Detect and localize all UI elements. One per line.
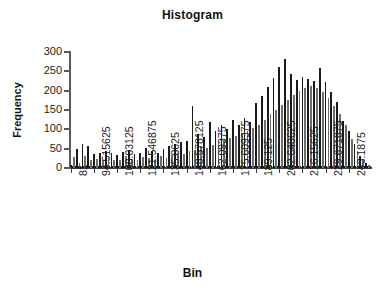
x-axis-tick: [210, 169, 211, 173]
y-axis-tick: [64, 51, 71, 53]
x-axis-tick-label: 243.1875: [343, 176, 357, 256]
y-axis-tick: [64, 167, 71, 169]
x-axis-tick-label: 216.15625: [296, 176, 310, 256]
histogram-bar: [229, 138, 231, 168]
histogram-bar: [278, 67, 280, 168]
y-axis-tick-label: 0: [36, 162, 62, 173]
x-axis-tick-label-text: 121.546875: [146, 121, 158, 176]
histogram-bar: [299, 91, 301, 168]
histogram-bar: [322, 92, 324, 168]
x-axis-tick: [71, 169, 72, 173]
histogram-bar: [255, 103, 257, 168]
x-axis-tick-label: 189.125: [250, 176, 264, 256]
x-axis-label: Bin: [0, 266, 385, 280]
x-axis-tick-label-text: 175.609375: [239, 121, 251, 176]
histogram-bar: [302, 77, 304, 168]
histogram-bar: [186, 141, 188, 168]
y-axis-tick-label: 200: [36, 85, 62, 96]
x-axis-tick: [187, 169, 188, 173]
y-axis-tick: [64, 128, 71, 130]
histogram-bar: [345, 125, 347, 168]
x-axis-tick: [349, 169, 350, 173]
x-axis-tick-label-text: 229.671875: [332, 121, 344, 176]
x-axis-tick-label-text: 243.1875: [355, 132, 367, 176]
histogram-bar: [235, 136, 237, 168]
x-axis-tick: [326, 169, 327, 173]
histogram-bar: [232, 120, 234, 168]
x-axis-tick-label: 135.0625: [157, 176, 171, 256]
histogram-bar: [252, 128, 254, 168]
y-axis-tick: [64, 70, 71, 72]
histogram-bar: [258, 125, 260, 168]
x-axis-tick-label: 202.640625: [273, 176, 287, 256]
x-axis-tick-label-text: 189.125: [262, 138, 274, 176]
x-axis-tick: [94, 169, 95, 173]
histogram-bar: [212, 145, 214, 168]
x-axis-tick-label-text: 162.09375: [216, 126, 228, 176]
x-axis-tick: [117, 169, 118, 173]
x-axis-tick: [233, 169, 234, 173]
x-axis-tick: [140, 169, 141, 173]
x-axis-tick-label-text: 94.515625: [100, 126, 112, 176]
x-axis-tick-label-text: 148.578125: [193, 121, 205, 176]
histogram-bar-stub: [370, 166, 371, 168]
x-axis-tick-label: 162.09375: [204, 176, 218, 256]
y-axis-tick-label: 250: [36, 65, 62, 76]
y-axis-tick: [64, 148, 71, 150]
y-axis-tick-labels: 300250200150100500: [34, 0, 62, 291]
y-axis-tick: [64, 109, 71, 111]
y-axis-label-text: Frequency: [11, 82, 23, 138]
x-axis-tick-label: 108.03125: [111, 176, 125, 256]
histogram-bar: [328, 98, 330, 168]
y-axis-tick-label: 150: [36, 104, 62, 115]
x-axis-tick-label: 121.546875: [134, 176, 148, 256]
x-axis-tick: [302, 169, 303, 173]
x-axis-tick-label-text: 216.15625: [308, 126, 320, 176]
histogram-bar: [275, 110, 277, 168]
x-axis-tick-label-text: 202.640625: [285, 121, 297, 176]
histogram-bar: [304, 88, 306, 168]
y-axis-tick: [64, 90, 71, 92]
histogram-bar: [351, 139, 353, 168]
x-axis-tick-label-text: 108.03125: [123, 126, 135, 176]
histogram-bar: [325, 82, 327, 168]
histogram-bar: [348, 131, 350, 168]
histogram-chart: Histogram Frequency 300250200150100500 8…: [0, 0, 385, 291]
y-axis-label: Frequency: [8, 55, 26, 165]
x-axis-tick-label-text: 135.0625: [169, 132, 181, 176]
x-axis-tick-label: 148.578125: [181, 176, 195, 256]
x-axis-tick-label-text: 81: [77, 164, 89, 176]
y-axis-tick-label: 300: [36, 46, 62, 57]
histogram-bar: [281, 105, 283, 168]
y-axis-tick-label: 100: [36, 123, 62, 134]
x-axis-tick-label: 94.515625: [88, 176, 102, 256]
x-axis-tick: [256, 169, 257, 173]
x-axis-tick-label: 175.609375: [227, 176, 241, 256]
x-axis-tick: [279, 169, 280, 173]
x-axis-tick: [163, 169, 164, 173]
histogram-bar: [209, 122, 211, 168]
y-axis-tick-label: 50: [36, 143, 62, 154]
x-axis-tick-label: 81: [65, 176, 79, 256]
x-axis-tick-label: 229.671875: [320, 176, 334, 256]
